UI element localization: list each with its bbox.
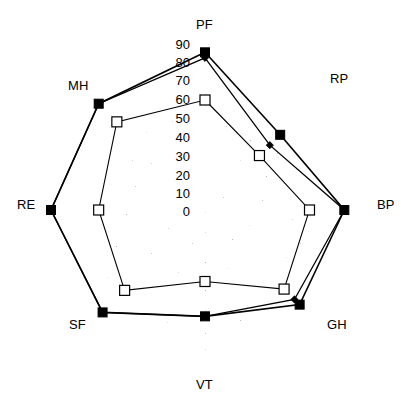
scan-speck — [205, 333, 206, 334]
series-layer — [47, 48, 349, 321]
scan-speck — [232, 239, 233, 240]
scan-speck — [132, 160, 133, 161]
axis-label-re: RE — [17, 198, 35, 211]
axis-label-vt: VT — [196, 378, 213, 391]
scan-speck — [205, 212, 206, 213]
axis-label-gh: GH — [327, 318, 347, 331]
scan-speck — [151, 253, 152, 254]
scan-speck — [108, 277, 109, 278]
tick-label-70: 70 — [150, 74, 190, 87]
scan-speck — [250, 140, 251, 141]
scan-speck — [223, 197, 224, 198]
data-point-re-open-square — [94, 205, 104, 215]
scan-speck — [300, 243, 301, 244]
radar-plot-area — [0, 0, 412, 401]
tick-label-10: 10 — [150, 187, 190, 200]
scan-speck — [227, 268, 228, 269]
scan-speck — [277, 153, 278, 154]
scan-speck — [292, 219, 293, 220]
tick-label-0: 0 — [150, 205, 190, 218]
series-line-filled-square — [51, 52, 344, 316]
series-open-square-group — [94, 95, 315, 295]
series-line-diamond — [51, 58, 344, 317]
tick-label-80: 80 — [150, 56, 190, 69]
scan-speck — [167, 322, 168, 323]
data-point-vt-open-square — [200, 277, 210, 287]
data-point-bp-open-square — [305, 205, 315, 215]
scan-speck — [189, 197, 190, 198]
data-point-rp-filled-square — [276, 130, 285, 139]
axis-label-mh: MH — [68, 79, 89, 92]
series-filled-square-group — [47, 48, 349, 321]
scan-speck — [226, 126, 227, 127]
radar-chart: PF RP BP GH VT SF RE MH 90 80 70 60 50 4… — [0, 0, 412, 401]
scan-speck — [205, 349, 206, 350]
scan-speck — [286, 257, 287, 258]
data-point-mh-open-square — [112, 117, 122, 127]
scan-speck — [172, 121, 173, 122]
scan-speck — [205, 262, 206, 263]
axis-label-rp: RP — [330, 72, 348, 85]
tick-label-90: 90 — [150, 38, 190, 51]
scan-speck — [116, 246, 117, 247]
axis-label-sf: SF — [69, 318, 86, 331]
scan-speck — [266, 176, 267, 177]
data-point-sf-open-square — [120, 285, 130, 295]
scan-speck — [249, 225, 250, 226]
scan-speck — [205, 290, 206, 291]
scan-speck — [126, 214, 127, 215]
data-point-pf-open-square — [200, 95, 210, 105]
data-point-rp-open-square — [254, 151, 264, 161]
data-point-gh-open-square — [279, 284, 289, 294]
scan-speck — [151, 163, 152, 164]
axis-label-pf: PF — [196, 18, 213, 31]
scan-speck — [262, 200, 263, 201]
tick-label-60: 60 — [150, 93, 190, 106]
scan-speck — [146, 132, 147, 133]
scan-speck — [178, 272, 179, 273]
scan-speck — [205, 310, 206, 311]
tick-label-40: 40 — [150, 131, 190, 144]
tick-label-30: 30 — [150, 150, 190, 163]
scan-speck — [135, 186, 136, 187]
tick-label-50: 50 — [150, 112, 190, 125]
scan-speck — [240, 320, 241, 321]
scan-speck — [168, 228, 169, 229]
scan-speck — [205, 232, 206, 233]
scan-speck — [240, 160, 241, 161]
series-diamond-group — [47, 54, 348, 320]
scan-speck — [192, 243, 193, 244]
axis-label-bp: BP — [377, 198, 395, 211]
tick-label-20: 20 — [150, 169, 190, 182]
